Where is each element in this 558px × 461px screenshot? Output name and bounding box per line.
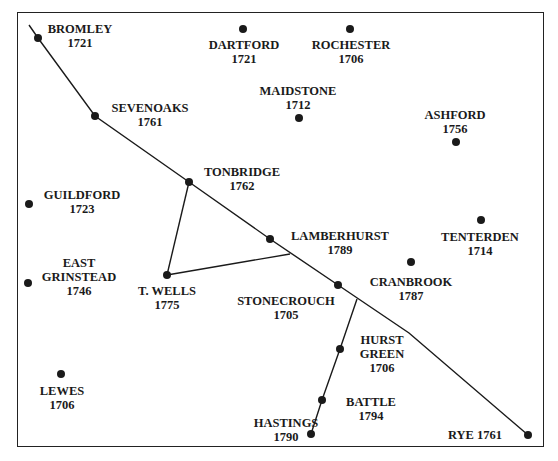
town-label-t-wells: T. WELLS1775 [138,284,196,312]
town-label-line: 1794 [346,409,396,423]
town-dot-icon [91,112,99,120]
town-label-line: 1787 [370,289,453,303]
town-label-tonbridge: TONBRIDGE1762 [204,165,280,193]
town-label-hurst-green: HURSTGREEN1706 [360,333,404,375]
town-label-guildford: GUILDFORD1723 [44,188,120,216]
town-label-line: DARTFORD [209,38,279,52]
town-dot-icon [407,258,415,266]
town-label-line: ASHFORD [424,108,485,122]
town-dot-icon [266,235,274,243]
town-label-line: EAST [42,256,116,270]
town-label-line: 1714 [441,244,519,258]
town-label-bromley: BROMLEY1721 [48,22,113,50]
town-label-lamberhurst: LAMBERHURST1789 [291,229,389,257]
town-label-ashford: ASHFORD1756 [424,108,485,136]
town-label-line: TENTERDEN [441,230,519,244]
town-dot-icon [57,370,65,378]
town-label-line: LEWES [40,384,84,398]
town-label-line: 1706 [312,52,391,66]
town-label-line: 1789 [291,243,389,257]
town-label-stonecrouch: STONECROUCH1705 [237,294,335,322]
town-dot-icon [163,271,171,279]
town-dot-icon [346,25,354,33]
town-label-line: ROCHESTER [312,38,391,52]
town-label-sevenoaks: SEVENOAKS1761 [111,101,188,129]
town-label-line: MAIDSTONE [260,84,337,98]
town-label-line: GREEN [360,347,404,361]
town-label-line: GRINSTEAD [42,270,116,284]
town-label-line: BATTLE [346,395,396,409]
town-dot-icon [239,25,247,33]
town-label-line: CRANBROOK [370,275,453,289]
town-label-maidstone: MAIDSTONE1712 [260,84,337,112]
town-dot-icon [185,178,193,186]
town-label-line: BROMLEY [48,22,113,36]
town-dot-icon [24,279,32,287]
town-dot-icon [336,345,344,353]
town-label-line: 1746 [42,284,116,298]
town-label-cranbrook: CRANBROOK1787 [370,275,453,303]
town-dot-icon [34,34,42,42]
town-label-line: HURST [360,333,404,347]
town-label-line: STONECROUCH [237,294,335,308]
town-label-line: HASTINGS [254,416,319,430]
town-dot-icon [452,138,460,146]
town-label-line: SEVENOAKS [111,101,188,115]
town-label-line: RYE 1761 [448,428,502,442]
town-label-line: 1775 [138,298,196,312]
town-label-lewes: LEWES1706 [40,384,84,412]
town-label-line: 1721 [48,36,113,50]
town-dot-icon [295,114,303,122]
town-label-line: 1721 [209,52,279,66]
town-dot-icon [334,281,342,289]
town-dot-icon [318,396,326,404]
town-label-line: 1712 [260,98,337,112]
town-dot-icon [477,216,485,224]
town-label-east-grinstead: EASTGRINSTEAD1746 [42,256,116,298]
town-label-line: GUILDFORD [44,188,120,202]
town-label-line: 1762 [204,179,280,193]
town-label-line: T. WELLS [138,284,196,298]
town-label-line: 1761 [111,115,188,129]
tonbridge-twells-road [167,182,189,275]
town-label-line: 1723 [44,202,120,216]
town-label-line: 1756 [424,122,485,136]
town-label-line: LAMBERHURST [291,229,389,243]
town-label-line: 1706 [360,361,404,375]
town-label-tenterden: TENTERDEN1714 [441,230,519,258]
town-label-rye: RYE 1761 [448,428,502,442]
town-label-battle: BATTLE1794 [346,395,396,423]
town-dot-icon [524,431,532,439]
town-label-dartford: DARTFORD1721 [209,38,279,66]
town-dot-icon [25,200,33,208]
town-label-line: 1706 [40,398,84,412]
town-label-hastings: HASTINGS1790 [254,416,319,444]
town-label-line: 1790 [254,430,319,444]
town-label-line: TONBRIDGE [204,165,280,179]
town-label-line: 1705 [237,308,335,322]
twells-lamberhurst-road [167,254,290,275]
town-label-rochester: ROCHESTER1706 [312,38,391,66]
